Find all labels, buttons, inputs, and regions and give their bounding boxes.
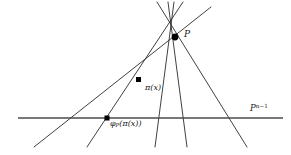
label-phi-p-pi-x: φP(π(x)) xyxy=(110,120,142,129)
label-apex-P: P xyxy=(184,30,190,39)
point-P-marker xyxy=(172,34,179,41)
label-phi-argument: (π(x)) xyxy=(119,119,141,128)
label-hyperplane: Pn−1 xyxy=(250,104,268,113)
label-pi-x: π(x) xyxy=(145,84,161,92)
geometry-figure: P π(x) φP(π(x)) Pn−1 xyxy=(0,0,291,155)
point-pi-x-marker xyxy=(136,77,141,82)
ray-right xyxy=(157,2,247,147)
diagram-canvas xyxy=(0,0,291,155)
point-phi-p-marker xyxy=(105,116,110,121)
label-apex-P-text: P xyxy=(184,29,190,39)
label-hyperplane-exponent: n−1 xyxy=(256,103,268,109)
label-pi-x-text: π(x) xyxy=(145,83,161,92)
